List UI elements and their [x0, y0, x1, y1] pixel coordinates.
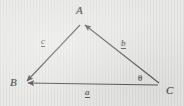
vector-label-c: c — [41, 37, 45, 47]
vector-a-line — [28, 83, 158, 85]
vertex-label-b: B — [10, 77, 17, 88]
vector-label-a: a — [85, 88, 90, 98]
vector-b-line — [85, 25, 159, 83]
triangle-vector-svg — [0, 0, 184, 106]
vector-c-line — [27, 25, 80, 81]
angle-label-theta: θ — [138, 74, 142, 83]
vertex-label-c: C — [166, 85, 173, 96]
vector-triangle-figure: A B C a b c θ — [0, 0, 184, 106]
vector-label-b: b — [121, 39, 126, 49]
vertex-label-a: A — [76, 5, 83, 16]
